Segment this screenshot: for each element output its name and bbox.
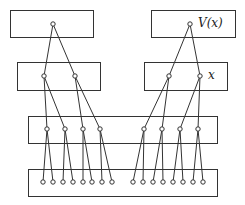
node-circle (41, 180, 45, 184)
label-v-of-x: V(x) (198, 17, 223, 29)
node-circle (171, 180, 175, 184)
node-circle (71, 180, 75, 184)
edge-line (198, 129, 203, 182)
node-circle (51, 180, 55, 184)
edge-line (169, 24, 190, 76)
edge-line (44, 24, 53, 76)
node-circle (178, 127, 182, 131)
box-wide-3 (29, 117, 218, 144)
node-circle (81, 127, 85, 131)
node-circle (161, 180, 165, 184)
edge-line (65, 129, 73, 182)
edge-line (47, 129, 53, 182)
box-mid-right (145, 63, 228, 91)
edge-line (53, 24, 75, 76)
edge-line (63, 129, 65, 182)
label-x: x (208, 69, 215, 81)
node-circle (81, 180, 85, 184)
edge-line (143, 129, 144, 182)
node-circle (73, 74, 77, 78)
edge-line (83, 129, 92, 182)
edge-line (44, 76, 65, 129)
node-circle (201, 180, 205, 184)
box-mid-left (18, 63, 101, 91)
node-circle (198, 74, 202, 78)
node-circle (110, 180, 114, 184)
edge-line (180, 76, 200, 129)
edge-line (43, 129, 47, 182)
edge-line (190, 24, 200, 76)
node-circle (196, 127, 200, 131)
node-circle (90, 180, 94, 184)
edges-layer (43, 24, 203, 182)
node-circle (160, 127, 164, 131)
box-wide-4 (29, 170, 218, 197)
edge-line (173, 129, 180, 182)
edge-line (44, 76, 47, 129)
node-circle (51, 22, 55, 26)
node-circle (181, 180, 185, 184)
node-circle (98, 127, 102, 131)
node-circle (131, 180, 135, 184)
edge-line (162, 129, 163, 182)
node-circle (191, 180, 195, 184)
node-circle (188, 22, 192, 26)
node-circle (61, 180, 65, 184)
node-circle (142, 127, 146, 131)
node-circle (141, 180, 145, 184)
node-circle (42, 74, 46, 78)
edge-line (153, 129, 162, 182)
edge-line (133, 129, 144, 182)
node-circle (63, 127, 67, 131)
node-circle (100, 180, 104, 184)
diagram-canvas (0, 0, 245, 205)
edge-line (193, 129, 198, 182)
edge-line (198, 76, 200, 129)
node-circle (167, 74, 171, 78)
node-circle (151, 180, 155, 184)
node-circle (45, 127, 49, 131)
edge-line (180, 129, 183, 182)
